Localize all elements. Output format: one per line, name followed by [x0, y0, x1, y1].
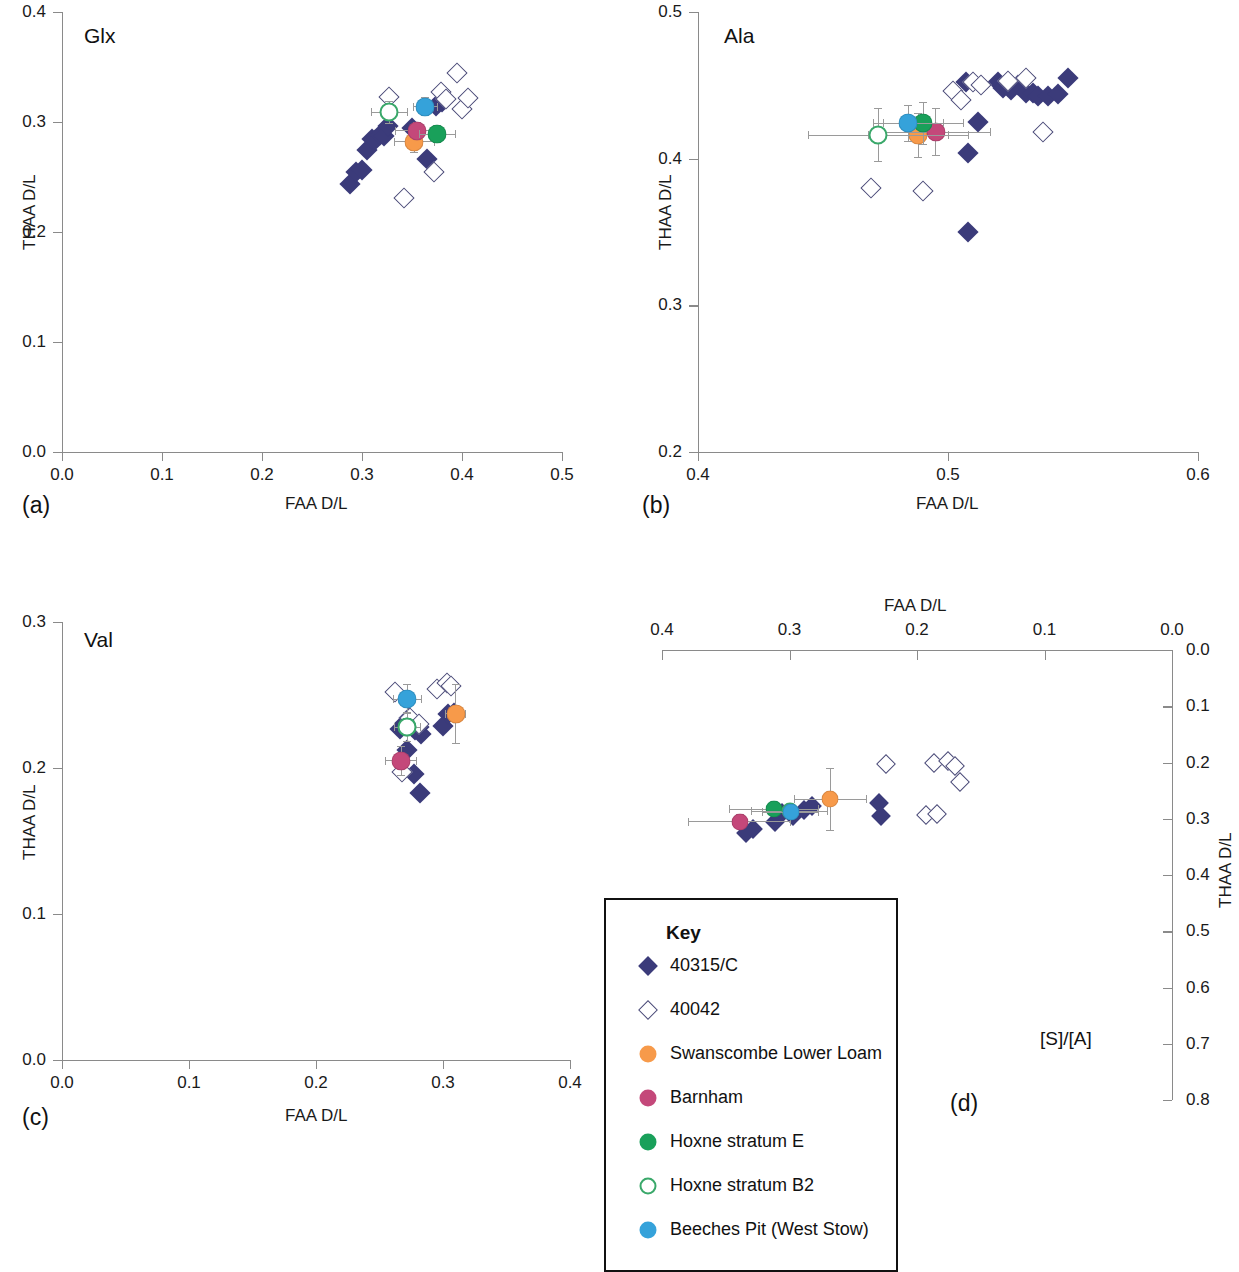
legend-item[interactable]: Beeches Pit (West Stow) [606, 1216, 896, 1256]
panel-a-x-axis-title: FAA D/L [285, 494, 347, 514]
marker-filled-circle [416, 97, 435, 116]
panel-glx: Glx THAA D/L FAA D/L (a) 0.00.10.20.30.4… [0, 0, 600, 540]
marker-filled-circle [398, 690, 417, 709]
marker-filled-diamond [957, 142, 978, 163]
error-cap [729, 805, 730, 813]
box-c-y-ticklabel: 0.3 [22, 612, 46, 632]
box-d-x-ticklabel: 0.0 [1160, 620, 1184, 640]
panel-b-x-axis-title: FAA D/L [916, 494, 978, 514]
error-cap [948, 131, 949, 139]
legend-item[interactable]: 40315/C [606, 952, 896, 992]
box-c-x-ticklabel: 0.0 [50, 1073, 74, 1093]
box-d-x-ticklabel: 0.1 [1033, 620, 1057, 640]
legend-item-label: Swanscombe Lower Loam [670, 1043, 882, 1064]
legend-item-label: Hoxne stratum E [670, 1131, 804, 1152]
box-b-x-tick [948, 452, 949, 461]
legend-filled-circle-icon [640, 1134, 657, 1151]
error-cap [397, 775, 405, 776]
box-a-x-tick [462, 452, 463, 461]
box-a-x-tick [62, 452, 63, 461]
panel-b-plot-area: 0.40.50.60.20.30.40.5 [698, 12, 1198, 452]
legend-item[interactable]: Swanscombe Lower Loam [606, 1040, 896, 1080]
marker-open-diamond [912, 180, 933, 201]
box-c-x-ticklabel: 0.2 [304, 1073, 328, 1093]
box-a-x-tick [162, 452, 163, 461]
error-cap [403, 684, 411, 685]
box-b-y-tick [689, 305, 698, 306]
box-a-y-ticklabel: 0.4 [22, 2, 46, 22]
error-cap [932, 108, 940, 109]
error-cap [394, 723, 395, 731]
box-d-x-tick [1172, 650, 1173, 660]
error-cap [371, 108, 372, 116]
box-b-y-tick [689, 159, 698, 160]
error-cap [420, 723, 421, 731]
legend-item[interactable]: 40042 [606, 996, 896, 1036]
legend-open-circle-icon [640, 1178, 657, 1195]
box-b-x-tick [698, 452, 699, 461]
error-cap [407, 108, 408, 116]
legend-item[interactable]: Hoxne stratum B2 [606, 1172, 896, 1212]
error-cap [762, 808, 763, 816]
box-d-x-ticklabel: 0.2 [905, 620, 929, 640]
marker-filled-circle [428, 125, 447, 144]
error-cap [866, 795, 867, 803]
box-a-x-ticklabel: 0.5 [550, 465, 574, 485]
error-cap [395, 127, 396, 135]
box-c-y-ticklabel: 0.2 [22, 758, 46, 778]
box-d-y-axis [1172, 650, 1173, 1100]
box-b-x-tick [1198, 452, 1199, 461]
error-cap [437, 103, 438, 111]
box-d-y-ticklabel: 0.6 [1186, 978, 1210, 998]
legend-item[interactable]: Barnham [606, 1084, 896, 1124]
marker-open-circle [869, 126, 888, 145]
error-cap [452, 684, 460, 685]
box-a-x-ticklabel: 0.4 [450, 465, 474, 485]
panel-d-x-axis-title: FAA D/L [884, 596, 946, 616]
box-a-y-tick [53, 452, 62, 453]
box-c-x-ticklabel: 0.1 [177, 1073, 201, 1093]
box-d-y-ticklabel: 0.0 [1186, 640, 1210, 660]
error-cap [403, 741, 411, 742]
marker-filled-diamond [410, 782, 431, 803]
box-d-y-ticklabel: 0.8 [1186, 1090, 1210, 1110]
panel-a-plot-area: 0.00.10.20.30.40.50.00.10.20.30.4 [62, 12, 562, 452]
marker-open-diamond [393, 187, 414, 208]
error-cap [874, 108, 882, 109]
marker-open-circle [380, 103, 399, 122]
error-cap [393, 695, 394, 703]
box-a-x-tick [362, 452, 363, 461]
legend-filled-circle-icon [640, 1090, 657, 1107]
error-cap [419, 130, 420, 138]
error-cap [826, 830, 834, 831]
panel-b-y-axis-title: THAA D/L [656, 174, 676, 250]
box-d-y-ticklabel: 0.7 [1186, 1034, 1210, 1054]
panel-a-tag: (a) [22, 492, 50, 519]
error-cap [873, 119, 874, 127]
legend-item-label: Beeches Pit (West Stow) [670, 1219, 869, 1240]
box-a-x-ticklabel: 0.3 [350, 465, 374, 485]
legend-item-label: 40042 [670, 999, 720, 1020]
legend-item[interactable]: Hoxne stratum E [606, 1128, 896, 1168]
box-d-y-ticklabel: 0.4 [1186, 865, 1210, 885]
marker-open-diamond [927, 804, 947, 824]
error-cap [397, 746, 405, 747]
error-cap [919, 144, 927, 145]
box-c-y-tick [53, 914, 62, 915]
box-d-y-ticklabel: 0.2 [1186, 753, 1210, 773]
box-b-x-ticklabel: 0.5 [936, 465, 960, 485]
box-a-y-ticklabel: 0.1 [22, 332, 46, 352]
box-a-y-ticklabel: 0.2 [22, 222, 46, 242]
error-cap [914, 157, 922, 158]
panel-ala: Ala THAA D/L FAA D/L (b) 0.40.50.60.20.3… [620, 0, 1239, 540]
box-b-y-tick [689, 452, 698, 453]
error-cap [413, 103, 414, 111]
box-c-x-tick [443, 1060, 444, 1069]
legend-filled-diamond-icon [638, 956, 658, 976]
marker-filled-circle [782, 804, 799, 821]
marker-open-diamond [876, 754, 896, 774]
box-c-x-ticklabel: 0.4 [558, 1073, 582, 1093]
error-cap [421, 695, 422, 703]
box-a-y-tick [53, 12, 62, 13]
panel-c-tag: (c) [22, 1104, 49, 1131]
